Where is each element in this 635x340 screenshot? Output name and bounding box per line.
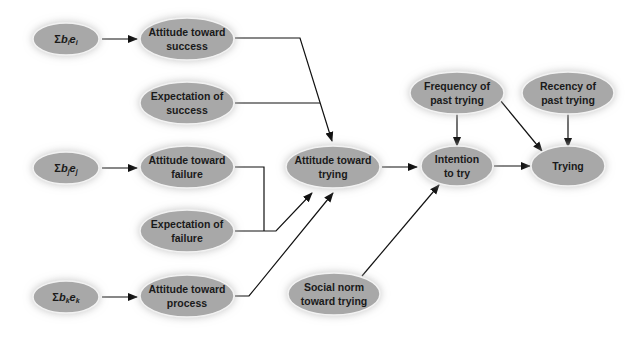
node-expectation-of-failure: Expectation of failure	[140, 210, 234, 252]
svg-text:Trying: Trying	[552, 160, 584, 172]
node-frequency-of-past-trying: Frequency of past trying	[410, 72, 504, 114]
node-social-norm-toward-trying: Social norm toward trying	[288, 273, 380, 315]
node-attitude-toward-failure: Attitude toward failure	[140, 146, 234, 188]
svg-text:failure: failure	[171, 232, 203, 244]
svg-text:Frequency of: Frequency of	[424, 80, 490, 92]
svg-text:failure: failure	[171, 168, 203, 180]
node-sum-bk-ek: Σbkek	[33, 281, 99, 313]
edge-expectation-failure-to-attitude-trying	[235, 193, 312, 231]
edge-attitude-success-to-attitude-trying	[235, 38, 332, 141]
svg-text:success: success	[166, 40, 208, 52]
svg-text:Intention: Intention	[435, 153, 479, 165]
node-attitude-toward-process: Attitude toward process	[140, 275, 234, 317]
node-expectation-of-success: Expectation of success	[140, 82, 234, 124]
svg-text:Expectation of: Expectation of	[151, 218, 224, 230]
node-attitude-toward-trying: Attitude toward trying	[286, 146, 380, 188]
node-sum-bj-ej: Σbjej	[33, 152, 99, 184]
svg-text:to try: to try	[444, 167, 470, 179]
svg-text:Attitude toward: Attitude toward	[149, 154, 226, 166]
node-recency-of-past-trying: Recency of past trying	[522, 72, 614, 114]
theory-of-trying-diagram: Σbiei Σbjej Σbkek Attitude toward succes…	[0, 0, 635, 340]
svg-text:past trying: past trying	[541, 94, 595, 106]
node-attitude-toward-success: Attitude toward success	[140, 18, 234, 60]
svg-text:Σbjej: Σbjej	[54, 162, 78, 176]
svg-text:Σbiei: Σbiei	[54, 33, 78, 46]
edge-social-norm-to-intention	[362, 185, 439, 276]
svg-text:process: process	[167, 297, 207, 309]
edge-attitude-failure-join	[235, 167, 264, 231]
svg-text:toward trying: toward trying	[301, 295, 368, 307]
node-trying: Trying	[531, 146, 605, 186]
svg-text:Attitude toward: Attitude toward	[149, 283, 226, 295]
svg-text:Attitude toward: Attitude toward	[295, 154, 372, 166]
svg-text:Recency of: Recency of	[540, 80, 597, 92]
svg-text:Social norm: Social norm	[304, 281, 364, 293]
svg-text:Expectation of: Expectation of	[151, 90, 224, 102]
svg-text:Attitude toward: Attitude toward	[149, 26, 226, 38]
node-sum-bi-ei: Σbiei	[33, 23, 99, 55]
svg-text:past trying: past trying	[430, 94, 484, 106]
svg-text:trying: trying	[318, 168, 347, 180]
node-intention-to-try: Intention to try	[421, 146, 493, 186]
svg-text:success: success	[166, 104, 208, 116]
